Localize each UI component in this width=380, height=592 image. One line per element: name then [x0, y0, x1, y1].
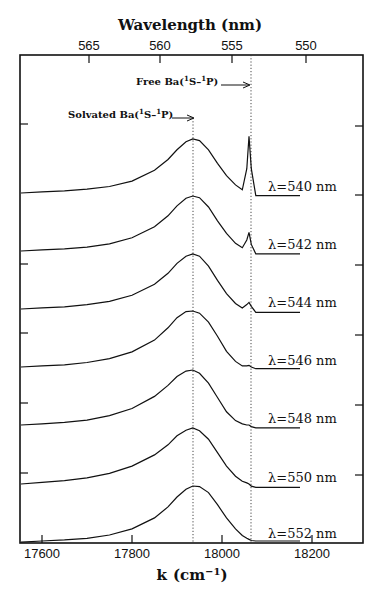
bottom-tick-label: 18000	[204, 546, 240, 561]
series-label: λ=546 nm	[268, 353, 337, 368]
bottom-axis-title: k(cm−1)	[157, 566, 228, 585]
top-axis-title: Wavelength (nm)	[117, 16, 262, 34]
bottom-tick-label: 17800	[114, 546, 150, 561]
bottom-tick-label: 17600	[24, 546, 60, 561]
series-label: λ=542 nm	[268, 237, 337, 252]
spectra-traces	[21, 136, 300, 542]
free-atom-annotation: Free Ba(1S–1P)	[136, 74, 250, 89]
top-tick-label: 550	[295, 38, 317, 53]
top-tick-label: 565	[78, 38, 100, 53]
solvated-annotation: Solvated Ba(1S–1P)	[68, 107, 194, 122]
spectrum-trace	[21, 196, 300, 254]
spectrum-trace	[21, 136, 300, 195]
spectra-chart: Wavelength (nm) 565560555550 Free Ba(1S–…	[0, 0, 380, 592]
series-label: λ=548 nm	[268, 411, 337, 426]
spectrum-trace	[21, 370, 300, 428]
spectrum-trace	[21, 486, 300, 542]
bottom-tick-label: 18200	[294, 546, 330, 561]
series-labels: λ=540 nmλ=542 nmλ=544 nmλ=546 nmλ=548 nm…	[268, 179, 337, 541]
series-label: λ=550 nm	[268, 470, 337, 485]
spectrum-trace	[21, 428, 300, 487]
series-label: λ=544 nm	[268, 295, 337, 310]
series-label: λ=540 nm	[268, 179, 337, 194]
series-label: λ=552 nm	[268, 526, 337, 541]
svg-text:Solvated Ba(1S–1P): Solvated Ba(1S–1P)	[68, 107, 173, 121]
svg-text:Free Ba(1S–1P): Free Ba(1S–1P)	[136, 74, 218, 88]
bottom-axis-tick-labels: 17600178001800018200	[24, 546, 330, 561]
spectrum-trace	[21, 254, 300, 312]
top-tick-label: 555	[221, 38, 243, 53]
top-axis-tick-labels: 565560555550	[78, 38, 317, 53]
spectrum-trace	[21, 311, 300, 369]
top-tick-label: 560	[149, 38, 171, 53]
